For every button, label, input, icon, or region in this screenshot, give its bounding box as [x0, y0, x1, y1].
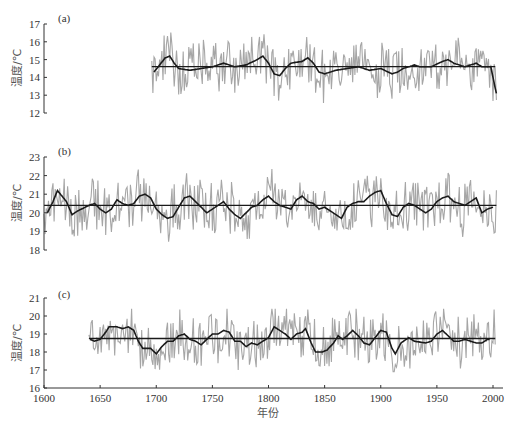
y-tick-label: 19 — [29, 328, 41, 340]
panel-b-y-label: 温度/℃ — [10, 184, 24, 222]
y-tick-label: 16 — [29, 36, 41, 48]
panel-a-y-label: 温度/℃ — [10, 49, 24, 87]
y-tick-label: 19 — [29, 225, 41, 237]
x-tick-label: 1750 — [201, 392, 224, 404]
panel-c-y-label: 温度/℃ — [10, 324, 24, 362]
panel-label-c: (c) — [58, 288, 71, 301]
x-tick-label: 1950 — [426, 392, 449, 404]
x-tick-label: 1900 — [370, 392, 393, 404]
x-tick-label: 1800 — [258, 392, 281, 404]
x-axis: 160016501700175018001850190019502000 — [33, 385, 505, 404]
x-tick-label: 1600 — [33, 392, 56, 404]
x-tick-label: 1650 — [89, 392, 112, 404]
panel-c-y-axis: 161718192021 — [29, 292, 47, 394]
y-tick-label: 18 — [29, 244, 41, 256]
panel-b: (b) 181920212223 温度/℃ — [10, 145, 496, 256]
y-tick-label: 12 — [29, 107, 40, 119]
x-axis-label: 年份 — [257, 406, 279, 420]
y-tick-label: 18 — [29, 346, 41, 358]
y-tick-label: 20 — [29, 310, 41, 322]
panel-b-y-axis: 181920212223 — [29, 151, 47, 256]
x-tick-label: 1700 — [145, 392, 168, 404]
y-tick-label: 14 — [29, 71, 41, 83]
y-tick-label: 20 — [29, 207, 41, 219]
y-tick-label: 13 — [29, 89, 41, 101]
panel-label-b: (b) — [58, 145, 71, 158]
y-tick-label: 17 — [29, 364, 41, 376]
x-tick-label: 1850 — [314, 392, 337, 404]
panel-c-raw-series — [89, 309, 495, 372]
x-tick-label: 2000 — [482, 392, 505, 404]
panel-a-y-axis: 121314151617 — [29, 18, 47, 119]
y-tick-label: 15 — [29, 54, 41, 66]
panel-b-smoothed-series — [47, 191, 493, 219]
y-tick-label: 23 — [29, 151, 41, 163]
y-tick-label: 21 — [29, 292, 40, 304]
temperature-chart-figure: (a) 121314151617 温度/℃ (b) 181920212223 温… — [0, 0, 516, 430]
y-tick-label: 21 — [29, 188, 40, 200]
panel-c: (c) 161718192021 温度/℃ — [10, 288, 495, 394]
panel-label-a: (a) — [58, 12, 71, 25]
panel-a: (a) 121314151617 温度/℃ — [10, 12, 496, 119]
y-tick-label: 22 — [29, 170, 40, 182]
y-tick-label: 17 — [29, 18, 41, 30]
